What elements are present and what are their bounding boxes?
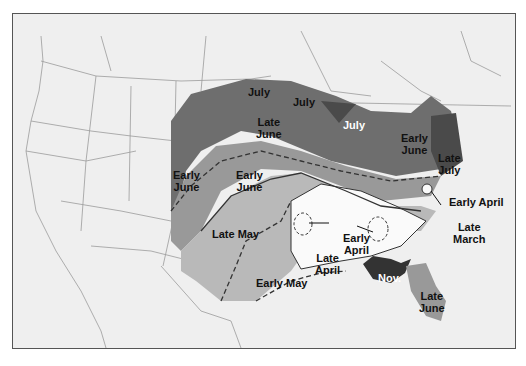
label-nov: Nov. bbox=[378, 272, 401, 284]
label-early-june-west: Early June bbox=[173, 169, 200, 193]
label-early-april-south: Early April bbox=[343, 232, 370, 256]
label-early-june-northeast: Early June bbox=[401, 132, 428, 156]
label-late-june-north: Late June bbox=[256, 116, 282, 140]
map-frame: July July July Late June Early June Earl… bbox=[12, 13, 516, 349]
label-july-michigan: July bbox=[343, 119, 365, 131]
label-late-june-florida: Late June bbox=[419, 290, 445, 314]
label-july-north-central: July bbox=[293, 96, 315, 108]
label-early-april-east: Early April bbox=[449, 196, 504, 208]
label-late-march: Late March bbox=[453, 221, 485, 245]
timing-zones bbox=[171, 79, 463, 321]
label-july-northwest: July bbox=[248, 86, 270, 98]
label-late-april: Late April bbox=[315, 252, 340, 276]
label-late-may: Late May bbox=[212, 228, 259, 240]
label-early-june-central: Early June bbox=[236, 169, 263, 193]
label-late-july: Late July bbox=[438, 152, 461, 176]
label-early-may: Early May bbox=[256, 277, 307, 289]
